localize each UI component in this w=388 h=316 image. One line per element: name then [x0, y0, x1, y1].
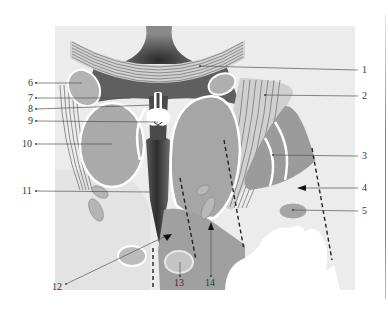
- leader-dot-3: [272, 154, 274, 156]
- callout-label-14: 14: [205, 277, 215, 288]
- callout-label-9: 9: [28, 115, 33, 126]
- leader-dot-8: [35, 108, 37, 110]
- structure-left-lower-oval: [118, 246, 146, 266]
- callout-label-3: 3: [362, 150, 367, 161]
- callout-label-12: 12: [52, 281, 62, 292]
- callout-label-13: 13: [174, 277, 184, 288]
- callout-label-5: 5: [362, 205, 367, 216]
- stalk-8-inner: [157, 93, 160, 109]
- leader-dot-6: [35, 82, 37, 84]
- leader-dot-5: [292, 209, 294, 211]
- diagram-panel: [55, 26, 355, 290]
- leader-dot-12: [65, 283, 67, 285]
- callout-label-10: 10: [22, 138, 32, 149]
- callout-label-6: 6: [28, 77, 33, 88]
- leader-dot-10: [35, 143, 37, 145]
- leader-dot-7: [35, 97, 37, 99]
- structure-10: [80, 103, 144, 187]
- callout-label-8: 8: [28, 103, 33, 114]
- bulb-9: [146, 108, 170, 126]
- leader-dot-9: [35, 120, 37, 122]
- leader-dot-2: [264, 94, 266, 96]
- structure-5: [279, 203, 307, 219]
- callout-label-7: 7: [28, 92, 33, 103]
- leader-dot-1: [199, 65, 201, 67]
- callout-label-2: 2: [362, 90, 367, 101]
- anatomical-diagram: 1234567891011121314: [0, 0, 388, 316]
- structure-13: [165, 251, 193, 273]
- callout-label-1: 1: [362, 64, 367, 75]
- structure-right-central: [171, 96, 240, 218]
- callout-label-4: 4: [362, 182, 367, 193]
- leader-dot-11: [35, 190, 37, 192]
- callout-label-11: 11: [22, 185, 32, 196]
